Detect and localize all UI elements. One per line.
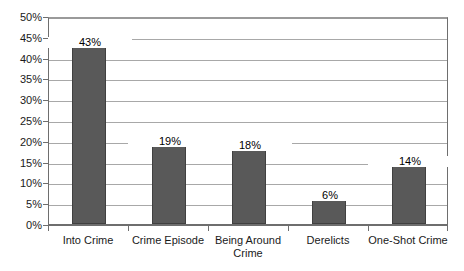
bar-value-label: 14% [368, 156, 452, 167]
gridline-40 [49, 60, 447, 61]
y-axis-tick-label: 45% [2, 33, 42, 44]
x-axis-tick-mark [208, 225, 209, 231]
x-axis-category-label: One-Shot Crime [366, 234, 450, 247]
bar-value-label: 6% [288, 190, 372, 201]
gridline-30 [49, 101, 447, 102]
x-axis-tick-mark [368, 225, 369, 231]
x-axis-category-label: Into Crime [48, 234, 128, 247]
y-axis-tick-label: 30% [2, 95, 42, 106]
bar-crime-episode [152, 145, 186, 224]
bar-being-around-crime [232, 149, 266, 224]
bar-value-label: 43% [48, 37, 132, 48]
bar-into-crime [72, 45, 106, 224]
bar-chart: 50% 45% 40% 35% 30% 25% 20% 15% 10% 5% 0… [0, 0, 464, 271]
x-axis-category-label: Derelicts [288, 234, 368, 247]
y-axis-tick-label: 0% [2, 220, 42, 231]
bar-one-shot-crime [392, 166, 426, 224]
x-axis-tick-mark [288, 225, 289, 231]
plot-area [48, 17, 448, 225]
gridline-50 [49, 18, 447, 19]
bar-derelicts [312, 199, 346, 224]
bar-value-label: 19% [128, 136, 212, 147]
y-axis-tick-label: 15% [2, 158, 42, 169]
bar-value-label: 18% [208, 140, 292, 151]
x-axis-tick-mark [48, 225, 49, 231]
y-axis-tick-label: 20% [2, 137, 42, 148]
y-axis-tick-label: 5% [2, 199, 42, 210]
x-axis-category-label: Crime Episode [126, 234, 210, 247]
gridline-25 [49, 122, 447, 123]
gridline-0 [49, 225, 447, 226]
y-axis-tick-label: 35% [2, 74, 42, 85]
y-axis-tick-label: 40% [2, 54, 42, 65]
gridline-35 [49, 80, 447, 81]
y-axis-tick-label: 50% [2, 12, 42, 23]
y-axis-tick-label: 25% [2, 116, 42, 127]
y-axis-tick-label: 10% [2, 178, 42, 189]
x-axis-category-label: Being Around Crime [206, 234, 290, 260]
x-axis-tick-mark [128, 225, 129, 231]
x-axis-tick-mark [447, 225, 448, 231]
